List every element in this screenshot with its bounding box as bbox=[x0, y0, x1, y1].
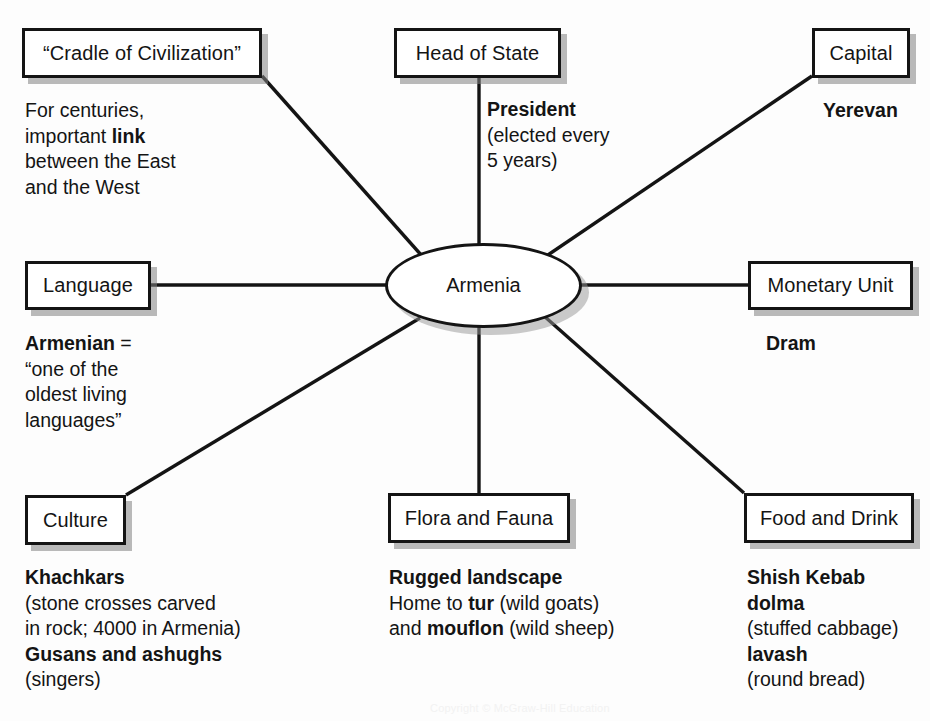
node-capital[interactable]: Capital bbox=[812, 28, 910, 78]
note-flora-line3-pre: and bbox=[389, 617, 427, 639]
node-monetary-unit-label: Monetary Unit bbox=[768, 274, 894, 297]
center-node-label: Armenia bbox=[446, 274, 520, 297]
note-culture: Khachkars (stone crosses carved in rock;… bbox=[25, 565, 241, 693]
footer-credit: Copyright © McGraw-Hill Education bbox=[430, 702, 610, 714]
note-flora-line3: and mouflon (wild sheep) bbox=[389, 616, 614, 642]
note-cradle-line2-bold: link bbox=[112, 125, 146, 147]
note-language-line3: oldest living bbox=[25, 382, 132, 408]
note-capital-line1-bold: Yerevan bbox=[823, 99, 898, 121]
center-node-armenia[interactable]: Armenia bbox=[385, 243, 582, 328]
note-capital-line1: Yerevan bbox=[823, 98, 898, 124]
note-cradle-line3: between the East bbox=[25, 149, 176, 175]
node-flora-and-fauna-label: Flora and Fauna bbox=[405, 507, 553, 530]
note-flora-line2: Home to tur (wild goats) bbox=[389, 591, 614, 617]
node-culture[interactable]: Culture bbox=[25, 495, 126, 545]
note-head-of-state-line3: 5 years) bbox=[487, 148, 609, 174]
note-head-of-state: President (elected every 5 years) bbox=[487, 97, 609, 174]
note-culture-line3: in rock; 4000 in Armenia) bbox=[25, 616, 241, 642]
note-food-line4: lavash bbox=[747, 642, 898, 668]
note-language-line2: “one of the bbox=[25, 357, 132, 383]
edge-culture bbox=[126, 318, 420, 495]
note-food-line1: Shish Kebab bbox=[747, 565, 898, 591]
note-language-line1-bold: Armenian bbox=[25, 332, 115, 354]
note-cradle-line2: important link bbox=[25, 124, 176, 150]
note-cradle-line2-pre: important bbox=[25, 125, 112, 147]
note-food-line2: dolma bbox=[747, 591, 898, 617]
note-cradle-line1: For centuries, bbox=[25, 98, 176, 124]
node-food-and-drink[interactable]: Food and Drink bbox=[744, 493, 914, 543]
note-flora-line3-bold: mouflon bbox=[427, 617, 504, 639]
note-monetary-unit-line1: Dram bbox=[766, 331, 816, 357]
note-flora-line2-bold: tur bbox=[468, 592, 494, 614]
note-food-line4-bold: lavash bbox=[747, 643, 808, 665]
node-flora-and-fauna[interactable]: Flora and Fauna bbox=[388, 493, 570, 543]
note-culture-line4-bold: Gusans and ashughs bbox=[25, 643, 222, 665]
note-cradle-line4: and the West bbox=[25, 175, 176, 201]
note-culture-line4: Gusans and ashughs bbox=[25, 642, 241, 668]
note-flora-line3-post: (wild sheep) bbox=[504, 617, 615, 639]
note-culture-line2: (stone crosses carved bbox=[25, 591, 241, 617]
note-flora-line1-bold: Rugged landscape bbox=[389, 566, 562, 588]
edge-food-drink bbox=[544, 316, 744, 493]
note-flora-and-fauna: Rugged landscape Home to tur (wild goats… bbox=[389, 565, 614, 642]
node-monetary-unit[interactable]: Monetary Unit bbox=[748, 261, 913, 310]
note-capital: Yerevan bbox=[823, 98, 898, 124]
note-monetary-unit: Dram bbox=[766, 331, 816, 357]
node-language[interactable]: Language bbox=[25, 261, 151, 310]
note-monetary-unit-line1-bold: Dram bbox=[766, 332, 816, 354]
note-cradle-of-civilization: For centuries, important link between th… bbox=[25, 98, 176, 200]
node-culture-label: Culture bbox=[43, 509, 108, 532]
note-language: Armenian = “one of the oldest living lan… bbox=[25, 331, 132, 433]
note-culture-line5: (singers) bbox=[25, 667, 241, 693]
note-food-line3: (stuffed cabbage) bbox=[747, 616, 898, 642]
note-head-of-state-line1: President bbox=[487, 97, 609, 123]
note-food-line5: (round bread) bbox=[747, 667, 898, 693]
node-capital-label: Capital bbox=[830, 42, 893, 65]
node-language-label: Language bbox=[43, 274, 133, 297]
note-flora-line2-pre: Home to bbox=[389, 592, 468, 614]
note-food-line1-bold: Shish Kebab bbox=[747, 566, 865, 588]
node-head-of-state-label: Head of State bbox=[416, 42, 540, 65]
note-language-line1-post: = bbox=[115, 332, 132, 354]
note-language-line4: languages” bbox=[25, 408, 132, 434]
note-food-and-drink: Shish Kebab dolma (stuffed cabbage) lava… bbox=[747, 565, 898, 693]
note-food-line2-bold: dolma bbox=[747, 592, 804, 614]
node-cradle-label: “Cradle of Civilization” bbox=[43, 42, 241, 65]
edge-cradle bbox=[262, 76, 422, 256]
note-flora-line2-post: (wild goats) bbox=[494, 592, 599, 614]
node-head-of-state[interactable]: Head of State bbox=[394, 28, 561, 78]
note-culture-line1-bold: Khachkars bbox=[25, 566, 125, 588]
note-language-line1: Armenian = bbox=[25, 331, 132, 357]
note-culture-line1: Khachkars bbox=[25, 565, 241, 591]
node-cradle-of-civilization[interactable]: “Cradle of Civilization” bbox=[22, 28, 262, 78]
node-food-and-drink-label: Food and Drink bbox=[760, 507, 898, 530]
concept-map-diagram: Armenia “Cradle of Civilization” For cen… bbox=[0, 0, 930, 721]
note-flora-line1: Rugged landscape bbox=[389, 565, 614, 591]
note-head-of-state-line2: (elected every bbox=[487, 123, 609, 149]
note-head-of-state-line1-bold: President bbox=[487, 98, 576, 120]
